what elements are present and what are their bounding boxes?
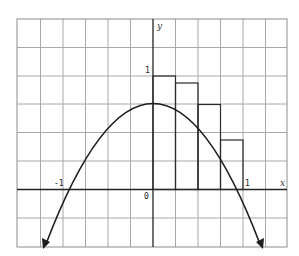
tick-label-y-one: 1 <box>145 66 150 75</box>
riemann-sum-diagram: y x -1 0 1 1 <box>0 0 299 256</box>
grid <box>17 19 287 247</box>
riemann-rectangle-3 <box>198 105 221 190</box>
tick-label-x-neg-one: -1 <box>54 179 64 188</box>
riemann-rectangle-2 <box>176 83 199 190</box>
tick-label-origin: 0 <box>144 192 149 201</box>
tick-label-x-one: 1 <box>245 179 250 188</box>
y-axis-label: y <box>156 21 163 31</box>
x-axis-label: x <box>280 178 285 188</box>
